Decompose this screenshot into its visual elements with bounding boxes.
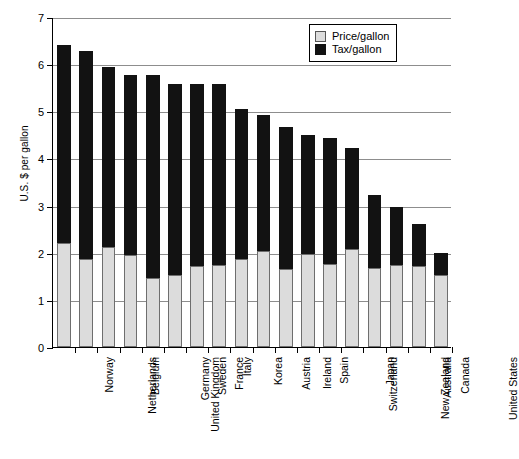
- bar-segment-tax: [57, 45, 71, 243]
- x-axis-tick: [97, 347, 98, 353]
- x-axis-label: Austria: [300, 357, 311, 390]
- bar-segment-tax: [235, 109, 249, 259]
- bar-segment-tax: [345, 148, 359, 250]
- bar-segment-price: [257, 251, 271, 347]
- x-axis-tick: [230, 347, 231, 353]
- bar-segment-tax: [190, 84, 204, 266]
- x-axis-label: Korea: [273, 357, 284, 385]
- bar-segment-price: [412, 266, 426, 347]
- x-axis-label: Spain: [339, 357, 350, 384]
- bar-segment-tax: [146, 75, 160, 278]
- x-axis-tick: [386, 347, 387, 353]
- x-axis-tick: [186, 347, 187, 353]
- x-axis-tick: [430, 347, 431, 353]
- y-axis-tick-label: 4: [38, 154, 44, 165]
- x-axis-tick: [408, 347, 409, 353]
- bar-korea: [235, 109, 249, 347]
- bar-segment-tax: [390, 207, 404, 265]
- bar-segment-price: [390, 265, 404, 347]
- bar-austria: [257, 115, 271, 347]
- bar-united-states: [434, 253, 448, 347]
- x-axis-label: Canada: [460, 357, 471, 394]
- bar-united-kingdom: [124, 75, 138, 347]
- bar-segment-price: [190, 266, 204, 347]
- bar-series-group: [53, 18, 451, 347]
- bar-france: [190, 84, 204, 347]
- bar-segment-price: [301, 254, 315, 347]
- x-axis-tick: [297, 347, 298, 353]
- bar-segment-price: [345, 249, 359, 347]
- bar-segment-tax: [212, 84, 226, 264]
- bar-segment-price: [124, 255, 138, 347]
- bar-spain: [301, 135, 315, 347]
- x-axis-label: Belgium: [150, 357, 161, 395]
- x-axis-label: United States: [508, 357, 519, 420]
- bar-segment-tax: [434, 253, 448, 275]
- bar-segment-price: [279, 269, 293, 347]
- x-axis-label: Japan: [385, 357, 396, 386]
- y-axis-tick-label: 1: [38, 295, 44, 306]
- x-axis-tick: [341, 347, 342, 353]
- bar-segment-price: [323, 264, 337, 347]
- bar-netherlands: [79, 51, 93, 347]
- plot-area: 01234567 NorwayNetherlandsBelgiumUnited …: [52, 18, 451, 348]
- legend-label-tax: Tax/gallon: [332, 44, 382, 55]
- bar-canada: [412, 224, 426, 347]
- x-axis-label: Ireland: [322, 357, 333, 389]
- bar-segment-tax: [257, 115, 271, 251]
- bar-segment-price: [434, 275, 448, 347]
- x-axis-label: Italy: [243, 357, 254, 376]
- bar-segment-price: [212, 265, 226, 348]
- bar-segment-price: [102, 247, 116, 347]
- y-axis-tick-label: 5: [38, 107, 44, 118]
- bar-segment-price: [368, 268, 382, 347]
- bar-segment-tax: [79, 51, 93, 258]
- legend-item-tax: Tax/gallon: [315, 44, 389, 55]
- bar-segment-tax: [301, 135, 315, 254]
- y-axis-tick: [47, 348, 53, 349]
- bar-segment-tax: [168, 84, 182, 275]
- bar-australia: [390, 207, 404, 347]
- x-axis-tick: [363, 347, 364, 353]
- bar-segment-tax: [124, 75, 138, 256]
- price-swatch-icon: [315, 31, 326, 42]
- bar-norway: [57, 45, 71, 347]
- bar-segment-price: [168, 275, 182, 347]
- bar-ireland: [279, 127, 293, 347]
- bar-segment-tax: [412, 224, 426, 265]
- x-axis-tick: [253, 347, 254, 353]
- x-axis-tick: [208, 347, 209, 353]
- y-axis-tick-label: 3: [38, 201, 44, 212]
- y-axis-title: U.S. $ per gallon: [19, 104, 30, 224]
- bar-segment-tax: [279, 127, 293, 269]
- chart-legend: Price/gallon Tax/gallon: [309, 24, 397, 62]
- bar-japan: [345, 148, 359, 347]
- bar-segment-price: [235, 259, 249, 347]
- x-axis-tick: [452, 347, 453, 353]
- y-axis-tick-label: 6: [38, 60, 44, 71]
- y-axis-tick-label: 0: [38, 343, 44, 354]
- y-axis-tick-label: 7: [38, 13, 44, 24]
- x-axis-label: Germany: [200, 357, 211, 400]
- x-axis-label: Sweden: [217, 357, 228, 395]
- legend-item-price: Price/gallon: [315, 31, 389, 42]
- bar-italy: [212, 84, 226, 347]
- legend-label-price: Price/gallon: [332, 31, 389, 42]
- y-axis-tick-label: 2: [38, 248, 44, 259]
- x-axis-tick: [75, 347, 76, 353]
- tax-swatch-icon: [315, 44, 326, 55]
- x-axis-tick: [319, 347, 320, 353]
- bar-switzerland: [323, 138, 337, 347]
- bar-segment-price: [146, 278, 160, 347]
- x-axis-label: Australia: [441, 357, 452, 398]
- bar-belgium: [102, 67, 116, 347]
- bar-segment-tax: [102, 67, 116, 247]
- bar-sweden: [168, 84, 182, 347]
- bar-segment-tax: [368, 195, 382, 268]
- x-axis-tick: [164, 347, 165, 353]
- bar-segment-price: [57, 243, 71, 347]
- bar-segment-price: [79, 259, 93, 347]
- x-axis-label: Norway: [104, 357, 115, 393]
- bar-germany: [146, 75, 160, 347]
